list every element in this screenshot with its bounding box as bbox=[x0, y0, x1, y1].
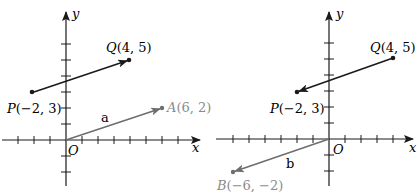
left-x-label: x bbox=[192, 140, 200, 155]
right-y-label: y bbox=[335, 6, 344, 21]
left-graph: y x O Q(4, 5) P(−2, 3) A(6, 2) a bbox=[2, 6, 211, 186]
right-x-label: x bbox=[409, 140, 417, 155]
left-origin-label: O bbox=[68, 143, 79, 158]
point-p-right bbox=[295, 90, 300, 95]
point-q bbox=[127, 58, 132, 63]
left-q-label: Q(4, 5) bbox=[106, 40, 152, 55]
point-a bbox=[160, 106, 164, 110]
right-origin-label: O bbox=[333, 142, 344, 157]
right-b-label: B(−6, −2) bbox=[216, 178, 283, 193]
vector-diagram: y x O Q(4, 5) P(−2, 3) A(6, 2) a bbox=[0, 0, 418, 195]
right-p-label: P(−2, 3) bbox=[269, 101, 325, 116]
vector-a bbox=[66, 109, 160, 140]
point-b bbox=[231, 170, 235, 174]
vector-qp bbox=[299, 58, 393, 91]
vector-pq bbox=[34, 61, 127, 92]
point-p bbox=[30, 90, 35, 95]
left-a-label: A(6, 2) bbox=[166, 100, 211, 115]
left-y-label: y bbox=[71, 6, 80, 21]
left-p-label: P(−2, 3) bbox=[6, 101, 62, 116]
right-q-label: Q(4, 5) bbox=[370, 40, 416, 55]
right-graph: y x O Q(4, 5) P(−2, 3) B(−6, −2) b bbox=[216, 6, 417, 193]
vector-a-label: a bbox=[101, 110, 109, 125]
vector-b-label: b bbox=[286, 156, 294, 171]
point-q-right bbox=[391, 56, 396, 61]
vector-b bbox=[235, 139, 329, 171]
